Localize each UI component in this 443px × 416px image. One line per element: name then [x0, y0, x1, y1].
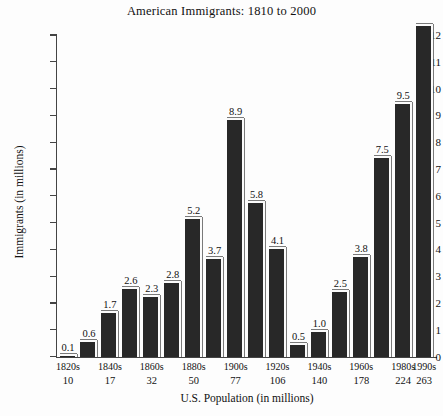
x-axis-decade-label: 1840s [98, 361, 122, 372]
x-axis-population-label: 77 [230, 375, 241, 386]
x-axis-population-label: 263 [416, 375, 432, 386]
bar-group[interactable] [416, 24, 433, 356]
x-axis-decade-label: 1920s [266, 361, 290, 372]
x-axis-decade-label: 1820s [56, 361, 80, 372]
bar-group[interactable]: 0.6 [80, 340, 97, 356]
bar[interactable] [395, 102, 412, 357]
x-axis-population-label: 140 [312, 375, 328, 386]
bar-group[interactable]: 7.5 [374, 156, 391, 357]
bar-value-label: 4.1 [271, 235, 284, 246]
bar[interactable] [80, 340, 97, 356]
bar-group[interactable]: 4.1 [269, 247, 286, 357]
bar-value-label: 8.9 [229, 106, 242, 117]
x-axis-population-label: 50 [188, 375, 199, 386]
bar-group[interactable]: 1.7 [101, 311, 118, 357]
bar-group[interactable]: 9.5 [395, 102, 412, 357]
x-axis-population-label: 32 [147, 375, 158, 386]
bar[interactable] [353, 255, 370, 357]
bar-value-label: 1.7 [103, 299, 116, 310]
bar-group[interactable]: 5.8 [248, 201, 265, 356]
bar-value-label: 0.5 [292, 331, 305, 342]
x-axis-population-label: 224 [395, 375, 411, 386]
bar-value-label: 3.7 [208, 245, 221, 256]
x-axis-decade-label: 1940s [307, 361, 331, 372]
x-axis-population-label: 10 [63, 375, 74, 386]
bar-value-label: 2.5 [334, 278, 347, 289]
bar[interactable] [248, 201, 265, 356]
bar-group[interactable]: 5.2 [185, 217, 202, 356]
bar-group[interactable]: 0.1 [60, 354, 77, 357]
bar[interactable] [269, 247, 286, 357]
bar[interactable] [374, 156, 391, 357]
x-axis-population-label: 17 [105, 375, 116, 386]
plot-area: 0.10.61.72.62.32.85.23.78.95.84.10.51.02… [0, 0, 443, 416]
bar-group[interactable]: 2.6 [122, 287, 139, 357]
bar-value-label: 0.1 [61, 342, 74, 353]
bar-group[interactable]: 3.7 [206, 257, 223, 356]
x-axis-decade-label: 1860s [140, 361, 164, 372]
bar[interactable] [164, 281, 181, 356]
bar[interactable] [290, 343, 307, 356]
bar[interactable] [416, 24, 433, 356]
bar-value-label: 2.6 [124, 275, 137, 286]
bar-value-label: 5.2 [187, 205, 200, 216]
bar-value-label: 0.6 [82, 328, 95, 339]
immigrants-bar-chart: American Immigrants: 1810 to 2000 121110… [0, 0, 443, 416]
bar[interactable] [332, 290, 349, 357]
bar-group[interactable]: 0.5 [290, 343, 307, 356]
x-axis-population-label: 178 [353, 375, 369, 386]
bar-value-label: 3.8 [355, 243, 368, 254]
x-axis-decade-label: 1990s [412, 361, 436, 372]
bar-value-label: 5.8 [250, 189, 263, 200]
bar-value-label: 1.0 [313, 318, 326, 329]
bar[interactable] [60, 354, 77, 357]
bar-value-label: 2.8 [166, 269, 179, 280]
bar[interactable] [227, 118, 244, 356]
bar-value-label: 9.5 [397, 90, 410, 101]
bar-group[interactable]: 2.5 [332, 290, 349, 357]
x-axis-decade-label: 1880s [182, 361, 206, 372]
bar-value-label: 7.5 [376, 144, 389, 155]
bar[interactable] [311, 330, 328, 357]
bar[interactable] [143, 295, 160, 357]
x-axis-population-label: 106 [270, 375, 286, 386]
bar-group[interactable]: 3.8 [353, 255, 370, 357]
bar-group[interactable]: 2.3 [143, 295, 160, 357]
bar-group[interactable]: 2.8 [164, 281, 181, 356]
x-axis-decade-label: 1960s [349, 361, 373, 372]
bar[interactable] [122, 287, 139, 357]
x-axis-decade-label: 1900s [224, 361, 248, 372]
x-axis-title: U.S. Population (in millions) [57, 392, 437, 404]
bar-group[interactable]: 1.0 [311, 330, 328, 357]
bar-value-label: 2.3 [145, 283, 158, 294]
bar[interactable] [185, 217, 202, 356]
bar-group[interactable]: 8.9 [227, 118, 244, 356]
bar[interactable] [101, 311, 118, 357]
bar[interactable] [206, 257, 223, 356]
